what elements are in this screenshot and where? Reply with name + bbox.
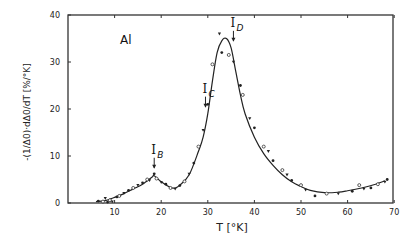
open-circle-point xyxy=(183,180,186,183)
triangle-point xyxy=(285,174,288,177)
triangle-point xyxy=(337,192,340,195)
triangle-point xyxy=(304,189,307,192)
triangle-point xyxy=(188,173,191,176)
x-tick-label: 20 xyxy=(156,208,166,217)
filled-circle-point xyxy=(164,183,167,186)
arrow-head-icon xyxy=(231,38,235,42)
x-tick-label: 30 xyxy=(203,208,213,217)
open-circle-point xyxy=(376,183,379,186)
material-label: Al xyxy=(120,33,132,47)
annotation-subscript: D xyxy=(236,23,243,33)
filled-circle-point xyxy=(127,189,130,192)
triangle-point xyxy=(362,188,365,191)
open-circle-point xyxy=(132,186,135,189)
open-circle-point xyxy=(358,184,361,187)
open-circle-point xyxy=(211,63,214,66)
x-axis-title: T [°K] xyxy=(215,221,248,234)
open-circle-point xyxy=(262,145,265,148)
open-circle-point xyxy=(169,186,172,189)
open-circle-point xyxy=(241,93,244,96)
plot-border xyxy=(68,15,393,203)
open-circle-point xyxy=(197,145,200,148)
x-tick-label: 10 xyxy=(110,208,120,217)
y-tick-label: 10 xyxy=(50,152,60,161)
annotation-label: I xyxy=(151,143,156,157)
triangle-point xyxy=(383,181,386,184)
arrow-head-icon xyxy=(152,165,156,169)
filled-circle-point xyxy=(178,184,181,187)
open-circle-point xyxy=(118,194,121,197)
triangle-point xyxy=(104,197,107,200)
open-circle-point xyxy=(155,177,158,180)
annotation-label: I xyxy=(202,82,207,96)
open-circle-point xyxy=(300,184,303,187)
triangle-point xyxy=(218,33,221,36)
open-circle-point xyxy=(325,192,328,195)
data-points xyxy=(97,33,389,204)
annotation-label: I xyxy=(230,16,235,30)
x-tick-label: 60 xyxy=(343,208,353,217)
y-tick-label: 30 xyxy=(50,58,60,67)
filled-circle-point xyxy=(272,159,275,162)
triangle-point xyxy=(267,150,270,153)
y-tick-label: 20 xyxy=(50,105,60,114)
filled-circle-point xyxy=(314,195,317,198)
triangle-point xyxy=(248,117,251,120)
x-tick-label: 70 xyxy=(389,208,399,217)
annotation-subscript: C xyxy=(208,89,215,99)
filled-circle-point xyxy=(141,181,144,184)
plot-frame xyxy=(68,15,393,203)
filled-circle-point xyxy=(386,178,389,181)
filled-circle-point xyxy=(192,162,195,165)
fit-curve-path xyxy=(96,38,385,202)
filled-circle-point xyxy=(253,126,256,129)
filled-circle-point xyxy=(97,200,100,203)
x-tick-label: 40 xyxy=(249,208,259,217)
open-circle-point xyxy=(227,53,230,56)
open-circle-point xyxy=(101,200,104,203)
arrow-head-icon xyxy=(203,104,207,108)
y-tick-label: 0 xyxy=(55,199,60,208)
annotation-subscript: B xyxy=(157,150,163,160)
fit-curve xyxy=(96,38,385,202)
y-tick-label: 40 xyxy=(50,11,60,20)
filled-circle-point xyxy=(351,190,354,193)
open-circle-point xyxy=(281,169,284,172)
chart-canvas: 10203040506070 010203040 IBICID Al T [°K… xyxy=(0,0,417,246)
filled-circle-point xyxy=(153,172,156,175)
y-axis-title: -(1/Δ0)·dΔ0/dT [%/°K] xyxy=(22,63,32,160)
filled-circle-point xyxy=(220,51,223,54)
x-tick-label: 50 xyxy=(296,208,306,217)
filled-circle-point xyxy=(290,179,293,182)
x-axis: 10203040506070 xyxy=(110,15,400,217)
open-circle-point xyxy=(108,199,111,202)
y-axis-title-group: -(1/Δ0)·dΔ0/dT [%/°K] xyxy=(22,63,32,160)
filled-circle-point xyxy=(239,84,242,87)
filled-circle-point xyxy=(370,187,373,190)
triangle-point xyxy=(174,188,177,191)
